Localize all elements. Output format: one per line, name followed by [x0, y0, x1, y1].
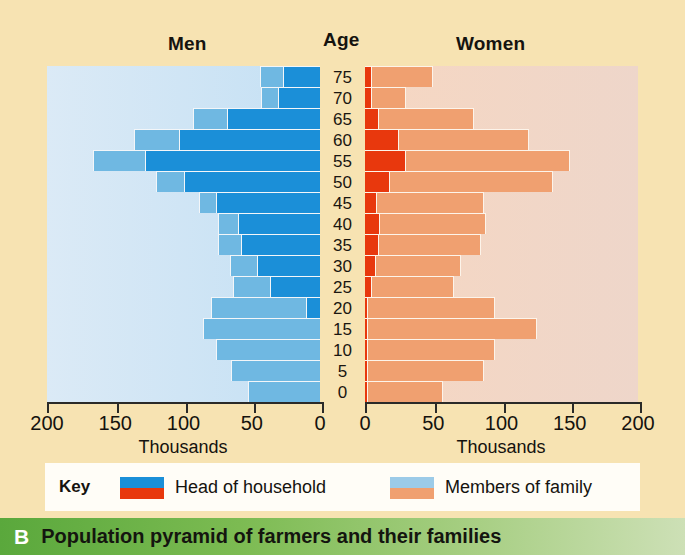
bar-segment-men-members-of-family [199, 192, 217, 213]
bar-segment-women-members-of-family [368, 381, 443, 402]
bar-segment-men-members-of-family [230, 255, 257, 276]
bar-segment-men-head-of-household [306, 297, 320, 318]
bar-segment-men-members-of-family [233, 276, 270, 297]
axis-tick-label-men: 100 [167, 412, 200, 435]
legend-swatch-members-of-family [390, 477, 434, 499]
bar-segment-women-head-of-household [365, 192, 377, 213]
bar-segment-men-head-of-household [145, 150, 320, 171]
bar-row-men [261, 87, 320, 108]
legend-label-members-of-family: Members of family [445, 477, 592, 498]
bar-segment-men-members-of-family [211, 297, 307, 318]
bar-row-men [218, 213, 320, 234]
bar-segment-women-head-of-household [365, 213, 380, 234]
bar-row-men [230, 255, 320, 276]
bar-segment-women-members-of-family [376, 255, 461, 276]
age-axis-labels: 757065605550454035302520151050 [320, 66, 365, 402]
bar-segment-women-members-of-family [368, 339, 495, 360]
bar-segment-women-members-of-family [380, 213, 486, 234]
bar-row-women [365, 234, 481, 255]
bar-row-men [134, 129, 320, 150]
bar-segment-men-members-of-family [261, 87, 277, 108]
figure-caption-bar: B Population pyramid of farmers and thei… [0, 518, 685, 555]
bar-segment-women-members-of-family [372, 276, 454, 297]
bar-segment-women-members-of-family [390, 171, 554, 192]
bar-segment-men-members-of-family [231, 360, 320, 381]
bar-segment-women-members-of-family [406, 150, 570, 171]
legend-swatch-head-of-household [120, 477, 164, 499]
age-label: 45 [320, 195, 365, 212]
population-pyramid-figure: Men Age Women 75706560555045403530252015… [0, 0, 685, 555]
age-label: 25 [320, 279, 365, 296]
bar-segment-women-members-of-family [377, 192, 483, 213]
bar-segment-women-members-of-family [379, 108, 475, 129]
legend-swatch-family-orange [390, 488, 434, 499]
bar-segment-women-members-of-family [368, 297, 495, 318]
bar-segment-men-members-of-family [218, 234, 241, 255]
age-label: 30 [320, 258, 365, 275]
bar-row-women [365, 276, 454, 297]
axis-tick-label-women: 100 [485, 412, 518, 435]
bar-segment-men-head-of-household [241, 234, 320, 255]
bar-segment-men-head-of-household [238, 213, 320, 234]
age-label: 55 [320, 153, 365, 170]
bar-segment-men-members-of-family [218, 213, 238, 234]
legend-swatch-head-blue [120, 477, 164, 488]
bar-row-women [365, 297, 495, 318]
bar-row-women [365, 318, 537, 339]
bar-segment-women-members-of-family [368, 318, 537, 339]
legend-key: Key Head of household Members of family [45, 463, 640, 511]
bar-segment-women-head-of-household [365, 66, 372, 87]
age-label: 60 [320, 132, 365, 149]
bar-segment-men-head-of-household [227, 108, 320, 129]
bar-segment-men-head-of-household [283, 66, 320, 87]
axis-tick-label-men: 0 [314, 412, 325, 435]
header-men: Men [168, 33, 207, 55]
age-label: 5 [320, 363, 365, 380]
age-label: 0 [320, 384, 365, 401]
bar-segment-women-head-of-household [365, 234, 379, 255]
bar-segment-men-members-of-family [248, 381, 320, 402]
bar-segment-women-members-of-family [372, 66, 433, 87]
axis-tick-label-men: 150 [99, 412, 132, 435]
chart-panel-women [365, 66, 638, 402]
bar-row-women [365, 381, 443, 402]
bar-row-women [365, 213, 486, 234]
bar-segment-men-members-of-family [93, 150, 145, 171]
bar-segment-women-head-of-household [365, 129, 399, 150]
age-label: 70 [320, 90, 365, 107]
x-axis-title-men: Thousands [138, 437, 227, 458]
bar-segment-men-head-of-household [278, 87, 320, 108]
axis-tick-label-women: 150 [553, 412, 586, 435]
bar-row-women [365, 87, 406, 108]
axis-tick-label-women: 0 [359, 412, 370, 435]
axis-tick-label-women: 200 [621, 412, 654, 435]
bar-segment-women-head-of-household [365, 150, 406, 171]
bar-segment-men-members-of-family [156, 171, 183, 192]
age-label: 35 [320, 237, 365, 254]
bar-segment-men-members-of-family [193, 108, 227, 129]
bar-segment-men-members-of-family [203, 318, 320, 339]
age-label: 10 [320, 342, 365, 359]
bar-row-women [365, 171, 553, 192]
bar-row-women [365, 108, 474, 129]
legend-label-head-of-household: Head of household [175, 477, 326, 498]
age-label: 40 [320, 216, 365, 233]
age-label: 50 [320, 174, 365, 191]
chart-panel-men [47, 66, 320, 402]
bar-row-men [260, 66, 320, 87]
age-label: 65 [320, 111, 365, 128]
caption-letter: B [14, 525, 29, 549]
age-label: 15 [320, 321, 365, 338]
bar-segment-men-members-of-family [134, 129, 179, 150]
bar-segment-women-head-of-household [365, 87, 372, 108]
bar-segment-women-head-of-household [365, 276, 372, 297]
bar-segment-women-members-of-family [379, 234, 481, 255]
bar-row-women [365, 255, 461, 276]
bar-segment-men-head-of-household [270, 276, 321, 297]
bar-row-men [211, 297, 320, 318]
age-label: 75 [320, 69, 365, 86]
x-axis-title-women: Thousands [456, 437, 545, 458]
axis-tick-label-men: 200 [30, 412, 63, 435]
header-women: Women [456, 33, 525, 55]
bar-row-men [248, 381, 320, 402]
